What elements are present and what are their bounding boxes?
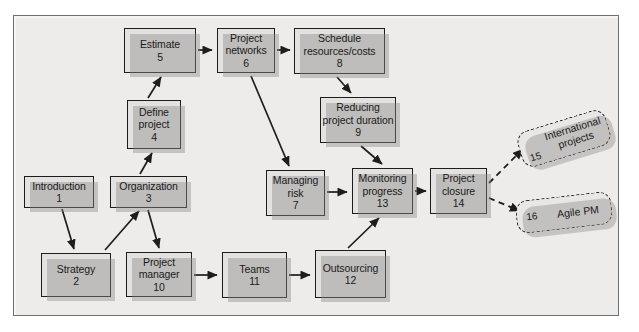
node-number: 12 [345,274,356,286]
node-number: 9 [355,126,361,138]
node-number: 5 [157,51,163,63]
node-label: Managing [273,174,318,186]
node-label: Teams [239,263,269,275]
node-strategy[interactable]: Strategy 2 [41,253,111,297]
node-label: Schedule [318,32,361,44]
node-project-manager[interactable]: Project manager 10 [126,252,192,297]
node-project-closure[interactable]: Project closure 14 [430,168,487,214]
edge-n2-n3 [105,211,139,250]
node-label-line2: risk [288,187,304,199]
node-label: Estimate [140,38,180,50]
node-number: 4 [151,131,157,143]
node-label: Introduction [32,180,86,192]
node-organization[interactable]: Organization 3 [110,176,187,208]
edge-n14-note15 [489,149,523,183]
node-reducing-project-duration[interactable]: Reducing project duration 9 [320,97,396,143]
node-project-networks[interactable]: Project networks 6 [217,28,275,73]
edge-n1-n2 [62,209,74,249]
node-label: Organization [119,180,177,192]
node-schedule-resources-costs[interactable]: Schedule resources/costs 8 [294,28,385,74]
node-label: Project [143,256,175,268]
node-estimate[interactable]: Estimate 5 [124,28,196,73]
edge-n6-n7 [251,76,289,166]
diagram-canvas: Introduction 1 Strategy 2 Organization 3… [0,0,639,332]
node-teams[interactable]: Teams 11 [222,252,287,298]
node-introduction[interactable]: Introduction 1 [24,176,94,208]
node-label: Reducing [336,101,380,113]
edge-n12-n13 [348,218,379,248]
node-number: 3 [146,192,152,204]
edge-n3-n10 [148,210,159,248]
note-label: Agile PM [546,202,609,221]
edge-n3-n4 [140,153,152,174]
node-label-line2: networks [225,44,266,56]
node-number: 10 [153,281,164,293]
node-number: 7 [293,199,299,211]
node-label: Project [230,32,262,44]
edge-n8-n9 [337,77,351,93]
node-label-line2: project duration [323,114,394,126]
node-define-project[interactable]: Define project 4 [127,100,181,149]
node-number: 11 [249,275,260,287]
node-label-line2: progress [362,185,402,197]
node-number: 6 [243,57,249,69]
node-number: 14 [453,197,464,209]
node-outsourcing[interactable]: Outsourcing 12 [315,250,386,298]
node-label: Outsourcing [323,262,379,274]
node-label: Monitoring [358,172,406,184]
node-label: Strategy [57,263,95,275]
node-number: 2 [73,275,79,287]
edge-n4-n5 [148,77,161,98]
node-number: 8 [337,57,343,69]
note-number: 16 [526,210,538,222]
node-number: 1 [56,192,62,204]
node-number: 13 [377,197,388,209]
node-monitoring-progress[interactable]: Monitoring progress 13 [352,168,413,214]
node-managing-risk[interactable]: Managing risk 7 [266,170,325,216]
edge-n9-n13 [361,146,382,164]
node-label-line2: closure [442,185,475,197]
node-label: Project [443,172,475,184]
note-number: 15 [529,150,543,164]
node-label-line2: project [139,118,170,130]
node-label-line2: resources/costs [303,45,375,57]
node-label: Define [139,106,169,118]
node-label-line2: manager [139,268,180,280]
